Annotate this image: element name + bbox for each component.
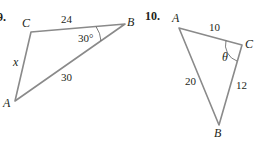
side-ab-label: 30	[61, 71, 73, 83]
vertex-c-label: C	[22, 16, 31, 30]
triangle-10: 10. A C B 10 20 12 θ	[145, 9, 254, 140]
vertex-b-label: B	[127, 15, 135, 29]
side-ac-label-10: 10	[209, 21, 221, 33]
angle-c-label: θ	[222, 50, 228, 64]
side-cb-label: 24	[61, 13, 73, 25]
triangle-9-shape	[15, 24, 125, 101]
diagram-canvas: 9. C B A 24 30 x 30° 10. A C B 10 20 12 …	[0, 0, 267, 142]
problem-number-9: 9.	[0, 10, 6, 24]
side-ac-label: x	[12, 55, 19, 69]
vertex-b-label-10: B	[214, 126, 222, 140]
problem-number-10: 10.	[145, 9, 160, 23]
angle-arc-b	[96, 27, 101, 42]
side-cb-label-10: 12	[236, 79, 247, 91]
side-ab-label-10: 20	[185, 75, 197, 87]
vertex-c-label-10: C	[245, 37, 254, 51]
angle-b-label: 30°	[78, 32, 93, 44]
vertex-a-label-10: A	[171, 11, 180, 25]
triangle-9: 9. C B A 24 30 x 30°	[0, 10, 135, 110]
vertex-a-label: A	[2, 96, 11, 110]
